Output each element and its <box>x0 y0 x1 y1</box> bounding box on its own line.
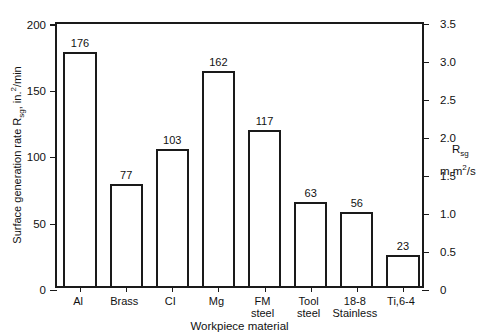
y-axis-title-sup: 2 <box>9 87 18 91</box>
y-axis-tick-label: 200 <box>27 19 46 32</box>
y-axis-title-sub: sg <box>17 109 26 117</box>
bar-value-label: 63 <box>305 188 317 199</box>
x-axis-category-label: Brass <box>110 295 138 307</box>
y2-axis-tick: 0 <box>422 290 429 291</box>
bar-value-label: 56 <box>351 198 363 209</box>
y2-axis-tick-label: 0 <box>440 284 446 297</box>
bar-value-label: 176 <box>71 38 89 49</box>
bar: 63 <box>294 202 327 286</box>
x-axis-category-label: CI <box>165 295 176 307</box>
bar: 23 <box>386 255 419 286</box>
y-axis-tick: 0 <box>50 290 57 291</box>
y-axis-tick: 50 <box>50 224 57 225</box>
y2-axis-title-sub: sg <box>460 149 468 158</box>
bar: 117 <box>248 130 281 286</box>
y2-axis-unit: m m2/s <box>440 161 476 178</box>
y-axis-tick: 150 <box>50 91 57 92</box>
y2-axis-tick-label: 2.5 <box>440 94 456 107</box>
y2-axis-tick: 2.0 <box>422 138 429 139</box>
y-axis-tick-label: 100 <box>27 151 46 164</box>
x-axis-category-label: FM steel <box>251 295 274 319</box>
x-axis-category-label: Tool steel <box>297 295 320 319</box>
y2-axis-tick-label: 0.5 <box>440 246 456 259</box>
x-axis-tick <box>403 286 404 292</box>
y2-axis-tick: 1.5 <box>422 176 429 177</box>
y2-axis-tick: 3.0 <box>422 62 429 63</box>
bar-value-label: 162 <box>209 57 227 68</box>
y-axis-title: Surface generation rate Rsg, in.2/min <box>6 22 22 288</box>
x-axis-category-label: Mg <box>209 295 224 307</box>
y-axis-tick-label: 0 <box>40 284 46 297</box>
x-axis-title: Workpiece material <box>55 320 424 333</box>
y-axis-tick-label: 150 <box>27 85 46 98</box>
x-axis-category-label: Al <box>73 295 83 307</box>
bar-chart-figure: Surface generation rate Rsg, in.2/min 05… <box>0 0 491 335</box>
y2-axis-unit-post: /s <box>467 165 476 177</box>
x-axis-tick <box>126 286 127 292</box>
bar: 176 <box>63 52 96 286</box>
bar-value-label: 103 <box>163 135 181 146</box>
y2-axis-unit-pre: m m <box>440 165 462 177</box>
y-axis-title-text: Surface generation rate Rsg, in.2/min <box>6 22 22 288</box>
bar-value-label: 77 <box>120 170 132 181</box>
y-axis-title-pre: Surface generation rate R <box>11 118 23 244</box>
y-axis-tick-label: 50 <box>33 218 46 231</box>
x-axis-tick <box>80 286 81 292</box>
bar: 162 <box>202 71 235 286</box>
y2-axis-tick-label: 3.0 <box>440 56 456 69</box>
y2-axis-tick: 1.0 <box>422 214 429 215</box>
bar-value-label: 117 <box>256 116 274 127</box>
bar: 56 <box>340 212 373 286</box>
plot-area: 05010015020000.51.01.52.02.53.03.5176771… <box>55 22 424 288</box>
y2-axis-tick-label: 3.5 <box>440 18 456 31</box>
y2-axis-tick-label: 1.0 <box>440 208 456 221</box>
y-axis-title-mid: , in. <box>11 92 23 110</box>
y-axis-tick: 100 <box>50 157 57 158</box>
x-axis-category-label: 18-8 Stainless <box>332 295 377 319</box>
x-axis-tick <box>172 286 173 292</box>
bar: 77 <box>110 184 143 286</box>
x-axis-tick <box>311 286 312 292</box>
y2-axis-tick: 3.5 <box>422 24 429 25</box>
bar-value-label: 23 <box>397 241 409 252</box>
y2-axis-tick: 0.5 <box>422 252 429 253</box>
y-axis-tick: 200 <box>50 24 57 26</box>
x-axis-tick <box>357 286 358 292</box>
x-axis-tick <box>218 286 219 292</box>
x-axis-tick <box>265 286 266 292</box>
y2-axis-tick: 2.5 <box>422 100 429 101</box>
bar: 103 <box>156 149 189 286</box>
y-axis-title-post: /min <box>11 66 23 87</box>
y2-axis-title: Rsg m m2/s <box>452 143 476 178</box>
x-axis-category-label: Ti,6-4 <box>387 295 415 307</box>
